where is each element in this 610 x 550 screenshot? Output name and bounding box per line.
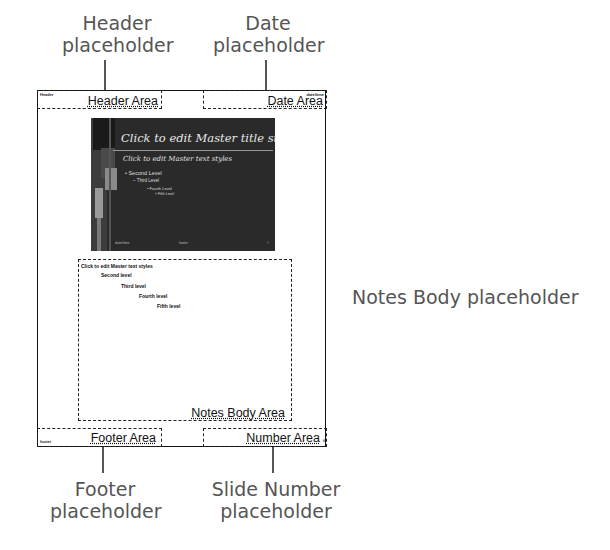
slide-title-rule <box>113 150 273 151</box>
slide-decor-bar <box>97 218 101 251</box>
header-area-label: Header Area <box>88 94 158 108</box>
header-area-placeholder[interactable]: Header Header Area <box>37 90 162 109</box>
slide-footer-left: date/time <box>115 241 129 245</box>
slide-number-callout-leader <box>272 445 274 473</box>
notes-body-area-label: Notes Body Area <box>191 406 285 420</box>
footer-area-placeholder[interactable]: footer Footer Area <box>37 428 162 447</box>
slide-footer-center: footer <box>179 241 188 245</box>
notes-level4: Fourth level <box>139 293 167 299</box>
number-area-placeholder[interactable]: Number Area # <box>203 428 327 447</box>
header-callout-line1: Header <box>62 12 172 34</box>
header-tiny-text: Header <box>40 92 54 97</box>
slide-text-level4: • Fourth Level <box>147 186 172 191</box>
footer-callout-line1: Footer <box>50 478 160 500</box>
date-area-label: Date Area <box>267 94 323 108</box>
date-callout: Date placeholder <box>213 12 323 56</box>
date-callout-line1: Date <box>213 12 323 34</box>
header-callout-line2: placeholder <box>62 34 172 56</box>
slide-footer-right: # <box>267 241 269 245</box>
slide-number-callout-line2: placeholder <box>196 500 356 522</box>
notes-level3: Third level <box>121 283 146 289</box>
slide-number-callout: Slide Number placeholder <box>196 478 356 522</box>
footer-tiny-text: footer <box>40 439 51 444</box>
footer-callout-line2: placeholder <box>50 500 160 522</box>
footer-callout-leader <box>102 445 104 473</box>
header-callout: Header placeholder <box>62 12 172 56</box>
slide-decor-bar <box>105 168 117 190</box>
slide-text-level2: • Second Level <box>125 170 162 176</box>
slide-number-callout-line1: Slide Number <box>196 478 356 500</box>
slide-text-level1: Click to edit Master text styles <box>123 155 232 163</box>
notes-level5: Fifth level <box>157 303 180 309</box>
slide-decor-bar <box>93 118 115 150</box>
notes-level1: Click to edit Master text styles <box>81 263 153 269</box>
notes-body-callout: Notes Body placeholder <box>352 286 579 308</box>
footer-callout: Footer placeholder <box>50 478 160 522</box>
slide-decor-bar <box>109 118 111 251</box>
notes-level2: Second level <box>101 272 132 278</box>
number-area-label: Number Area <box>246 431 320 445</box>
slide-text-level3: – Third Level <box>133 178 159 183</box>
slide-text-level5: » Fifth Level <box>155 192 174 196</box>
slide-image-placeholder[interactable]: Click to edit Master title style Click t… <box>91 118 275 251</box>
number-tiny-text: # <box>323 438 325 443</box>
slide-decor-bar <box>95 188 103 218</box>
slide-title: Click to edit Master title style <box>121 131 275 145</box>
notes-master-page: Header Header Area date/time Date Area C… <box>37 90 326 447</box>
date-area-placeholder[interactable]: date/time Date Area <box>203 90 327 109</box>
footer-area-label: Footer Area <box>91 431 156 445</box>
notes-body-placeholder[interactable]: Click to edit Master text styles Second … <box>78 259 292 421</box>
date-callout-line2: placeholder <box>213 34 323 56</box>
